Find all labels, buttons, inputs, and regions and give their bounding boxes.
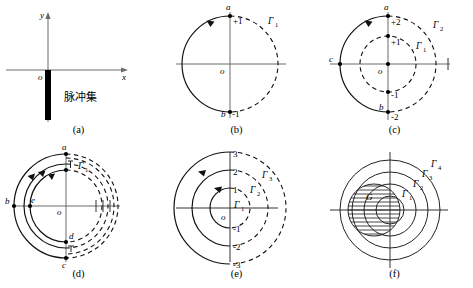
origin-dot <box>386 62 390 66</box>
origin-label: o <box>38 72 43 82</box>
gamma2-subscript: 2 <box>420 184 423 191</box>
panel-a: y x o 脉冲集 (a) <box>0 0 157 144</box>
point-e-label: e <box>31 195 35 205</box>
point-b-label: b <box>379 102 384 112</box>
pulse-bar <box>45 70 51 120</box>
gamma1-subscript: 1 <box>423 46 426 53</box>
gamma3-symbol: Γ <box>261 170 268 180</box>
gamma2-symbol: Γ <box>432 20 439 30</box>
origin-label: o <box>378 66 383 76</box>
point-b-label: b <box>221 109 226 119</box>
gamma1-label: Γ 1 <box>77 161 88 173</box>
panel-c: a +2 +1 -1 b -2 c o Γ 1 Γ 2 (c) <box>316 0 473 144</box>
gamma3-subscript: 3 <box>429 174 432 181</box>
point-b-dot <box>12 204 16 208</box>
point-c-dot <box>338 62 342 66</box>
gamma1-label: Γ 1 <box>401 189 412 201</box>
panel-d-caption: (d) <box>0 268 157 279</box>
marker-1-label: 1 <box>233 185 238 195</box>
y-axis-arrowhead <box>45 12 50 19</box>
point-a-dot <box>64 152 68 156</box>
panel-a-caption: (a) <box>0 124 157 135</box>
gamma4-label: Γ 4 <box>430 159 442 171</box>
panel-b-caption: (b) <box>158 124 315 135</box>
gamma4-subscript: 4 <box>438 164 442 171</box>
gamma1-label: Γ 1 <box>415 41 426 53</box>
figure-grid: y x o 脉冲集 (a) a +1 b -1 o <box>0 0 473 288</box>
gamma1-symbol: Γ <box>77 161 84 171</box>
point-b-label: b <box>5 196 10 206</box>
point-minus2-value: -2 <box>391 112 399 122</box>
gamma1-subscript: 1 <box>409 194 412 201</box>
panel-c-plot: a +2 +1 -1 b -2 c o Γ 1 Γ 2 <box>316 0 473 144</box>
panel-e-caption: (e) <box>158 268 315 279</box>
panel-c-caption: (c) <box>316 124 473 135</box>
panel-f-plot: G Γ 1 Γ 2 Γ 3 Γ 4 <box>316 144 473 288</box>
y-axis-label: y <box>39 10 44 20</box>
gamma2-label: Γ 2 <box>432 20 443 32</box>
gamma1-subscript: 1 <box>85 166 88 173</box>
gamma2-label: Γ 2 <box>412 179 423 191</box>
gamma1-symbol: Γ <box>401 189 408 199</box>
panel-d: a b c d e o Γ 1 (d) <box>0 144 157 288</box>
gamma2-symbol: Γ <box>249 185 256 195</box>
point-a-dot <box>228 14 232 18</box>
origin-label: o <box>220 66 225 76</box>
direction-arrowhead <box>207 21 215 28</box>
point-d-label: d <box>69 231 74 241</box>
panel-f: G Γ 1 Γ 2 Γ 3 Γ 4 (f) <box>316 144 473 288</box>
gamma1-symbol: Γ <box>415 41 422 51</box>
gamma2-label: Γ 2 <box>249 185 260 197</box>
region-G-label: G <box>366 192 373 202</box>
marker-3-label: 3 <box>233 149 238 159</box>
brace-bottom <box>68 246 74 252</box>
gamma1-label: Γ 1 <box>267 16 278 28</box>
gamma3-symbol: Γ <box>421 169 428 179</box>
gamma3-arrowhead <box>198 170 206 177</box>
point-plus1-dot <box>386 34 390 38</box>
panel-b: a +1 b -1 o Γ 1 (b) <box>158 0 315 144</box>
panel-e-plot: 3 2 1 -1 -2 -3 o Γ 1 Γ 2 Γ 3 <box>158 144 315 288</box>
gamma2-symbol: Γ <box>412 179 419 189</box>
point-plus1-value: +1 <box>391 37 401 47</box>
gamma4-symbol: Γ <box>430 159 437 169</box>
point-b-dot <box>386 110 390 114</box>
gamma1-symbol: Γ <box>267 16 274 26</box>
point-a-label: a <box>384 2 389 12</box>
gamma3-label: Γ 3 <box>261 170 272 182</box>
point-d-dot <box>64 240 68 244</box>
direction-arrowhead-inner <box>48 174 55 181</box>
direction-arrowhead <box>365 21 373 28</box>
x-axis-label: x <box>121 72 126 82</box>
origin-label: o <box>57 207 62 217</box>
gamma1-subscript: 1 <box>275 21 278 28</box>
point-plus2-value: +2 <box>391 17 401 27</box>
gamma1-subscript: 1 <box>241 205 244 212</box>
point-a-value: +1 <box>233 16 243 26</box>
point-minus1-dot <box>386 90 390 94</box>
point-b-value: -1 <box>232 109 240 119</box>
point-a-label: a <box>62 144 67 152</box>
gamma3-subscript: 3 <box>269 175 272 182</box>
panel-b-plot: a +1 b -1 o Γ 1 <box>158 0 315 144</box>
point-c-label: c <box>329 54 333 64</box>
gamma2-subscript: 2 <box>440 25 443 32</box>
point-top-inner-dot <box>64 168 68 172</box>
marker-minus2-label: -2 <box>233 242 241 252</box>
gamma2-subscript: 2 <box>257 190 260 197</box>
pulse-set-annotation: 脉冲集 <box>64 90 97 104</box>
panel-e: 3 2 1 -1 -2 -3 o Γ 1 Γ 2 Γ 3 (e) <box>158 144 315 288</box>
point-minus1-value: -1 <box>391 90 399 100</box>
marker-minus1-label: -1 <box>233 224 241 234</box>
point-a-dot <box>386 14 390 18</box>
panel-a-plot: y x o 脉冲集 <box>0 0 157 144</box>
panel-d-plot: a b c d e o Γ 1 <box>0 144 157 288</box>
origin-label: o <box>221 212 226 222</box>
point-a-label: a <box>226 2 231 12</box>
marker-2-label: 2 <box>233 167 238 177</box>
gamma3-label: Γ 3 <box>421 169 432 181</box>
gamma1-label: Γ 1 <box>233 200 244 212</box>
panel-f-caption: (f) <box>316 268 473 279</box>
gamma1-symbol: Γ <box>233 200 240 210</box>
